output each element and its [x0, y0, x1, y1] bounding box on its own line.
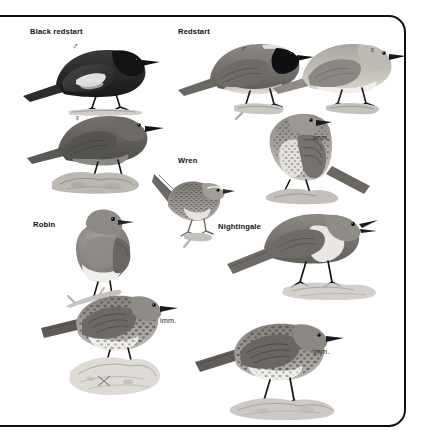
label-black-redstart: Black redstart	[30, 27, 83, 36]
bird-nightingale-immature	[194, 318, 354, 422]
bird-nightingale	[226, 206, 382, 304]
field-guide-plate: Black redstart Redstart Wren Robin Night…	[0, 0, 432, 446]
label-imm-robin: imm.	[160, 316, 177, 325]
symbol-male-black-redstart: ♂	[72, 41, 79, 51]
symbol-female-redstart: ♀	[369, 45, 376, 55]
symbol-female-black-redstart: ♀	[74, 113, 81, 123]
bird-black-redstart-male	[20, 38, 166, 116]
bird-redstart-immature	[236, 108, 376, 206]
bird-black-redstart-female	[26, 106, 168, 196]
label-imm-redstart: imm.	[313, 133, 330, 142]
bird-wren	[150, 168, 236, 248]
bird-robin-immature	[40, 290, 190, 398]
bird-redstart-female	[272, 32, 408, 118]
label-redstart: Redstart	[178, 27, 210, 36]
label-imm-nightingale: imm.	[313, 347, 330, 356]
label-wren: Wren	[178, 156, 197, 165]
symbol-male-redstart: ♂	[240, 44, 247, 54]
label-robin: Robin	[33, 220, 55, 229]
label-nightingale: Nightingale	[218, 222, 261, 231]
